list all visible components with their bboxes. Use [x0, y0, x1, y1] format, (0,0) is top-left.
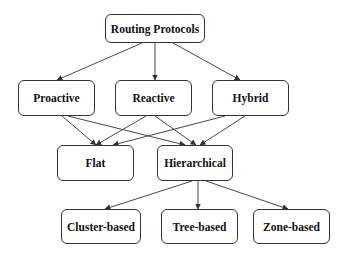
edge-routing-to-proactive: [57, 43, 142, 80]
node-zone: Zone-based: [253, 209, 330, 244]
node-reactive: Reactive: [115, 80, 192, 116]
edge-proactive-to-flat: [62, 116, 96, 145]
node-tree: Tree-based: [161, 209, 238, 244]
node-proactive: Proactive: [18, 80, 95, 116]
node-label: Routing Protocols: [111, 23, 199, 35]
routing-protocols-diagram: Routing ProtocolsProactiveReactiveHybrid…: [0, 0, 355, 259]
node-label: Tree-based: [173, 221, 227, 233]
edge-routing-to-hybrid: [173, 43, 240, 80]
node-hybrid: Hybrid: [212, 80, 289, 116]
edge-hierarchical-to-cluster: [105, 181, 192, 209]
edge-hierarchical-to-zone: [206, 181, 288, 209]
node-label: Zone-based: [263, 221, 320, 233]
edge-reactive-to-flat: [96, 116, 146, 145]
node-cluster: Cluster-based: [61, 209, 141, 244]
node-label: Hybrid: [233, 92, 269, 104]
node-routing: Routing Protocols: [105, 14, 205, 43]
node-label: Reactive: [132, 92, 174, 104]
edge-reactive-to-hierarchical: [155, 116, 196, 145]
node-hierarchical: Hierarchical: [157, 145, 233, 181]
node-label: Flat: [86, 157, 106, 169]
node-flat: Flat: [57, 145, 134, 181]
node-label: Hierarchical: [164, 157, 226, 169]
node-label: Cluster-based: [67, 221, 135, 233]
node-label: Proactive: [33, 92, 79, 104]
